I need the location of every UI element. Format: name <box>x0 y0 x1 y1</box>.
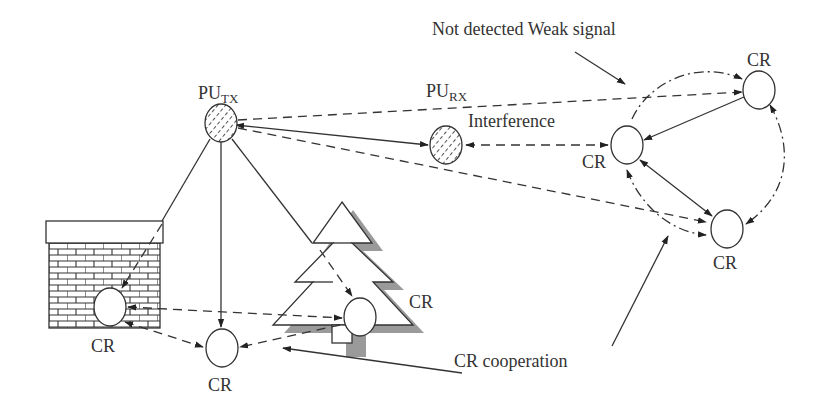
cr-bottom-label: CR <box>208 376 232 394</box>
pu-rx-label-main: PU <box>426 81 449 101</box>
pu-tx-label-main: PU <box>198 83 221 103</box>
pu-rx-node <box>430 126 462 164</box>
pu-tx-node <box>205 104 237 142</box>
cr-lower-right-label: CR <box>713 254 737 272</box>
cr-lower-right-node <box>711 210 743 248</box>
pu-tx-label: PUTX <box>198 84 238 102</box>
network-diagram-svg <box>0 0 827 417</box>
link-putx-building <box>162 139 210 221</box>
not-detected-label: Not detected Weak signal <box>432 20 616 38</box>
cr-building-node <box>94 288 126 326</box>
pointer-cooperation-right <box>612 236 668 346</box>
link-coop-center-top-right <box>632 72 742 119</box>
pointer-not-detected <box>575 52 625 84</box>
cr-center-node <box>611 126 643 164</box>
cr-tree-label: CR <box>409 293 433 311</box>
cr-cooperation-label: CR cooperation <box>454 352 567 370</box>
interference-label: Interference <box>468 112 555 130</box>
cr-top-right-node <box>743 71 775 109</box>
cr-tree-node <box>344 298 376 336</box>
pu-rx-label: PURX <box>426 82 467 100</box>
pu-rx-label-sub: RX <box>449 89 467 104</box>
pointer-cooperation-left <box>283 348 462 373</box>
link-cr-top-right-to-center <box>644 97 744 140</box>
cr-building-label: CR <box>91 337 115 355</box>
cr-center-label: CR <box>582 153 606 171</box>
cr-top-right-label: CR <box>747 51 771 69</box>
pu-tx-label-sub: TX <box>221 91 238 106</box>
link-putx-purx <box>236 125 428 145</box>
cr-bottom-node <box>206 329 238 367</box>
link-putx-tree <box>232 139 312 243</box>
pine-tree <box>273 202 424 357</box>
diagram-canvas: PUTX PURX Interference Not detected Weak… <box>0 0 827 417</box>
link-coop-top-right-lower-right <box>746 105 784 224</box>
